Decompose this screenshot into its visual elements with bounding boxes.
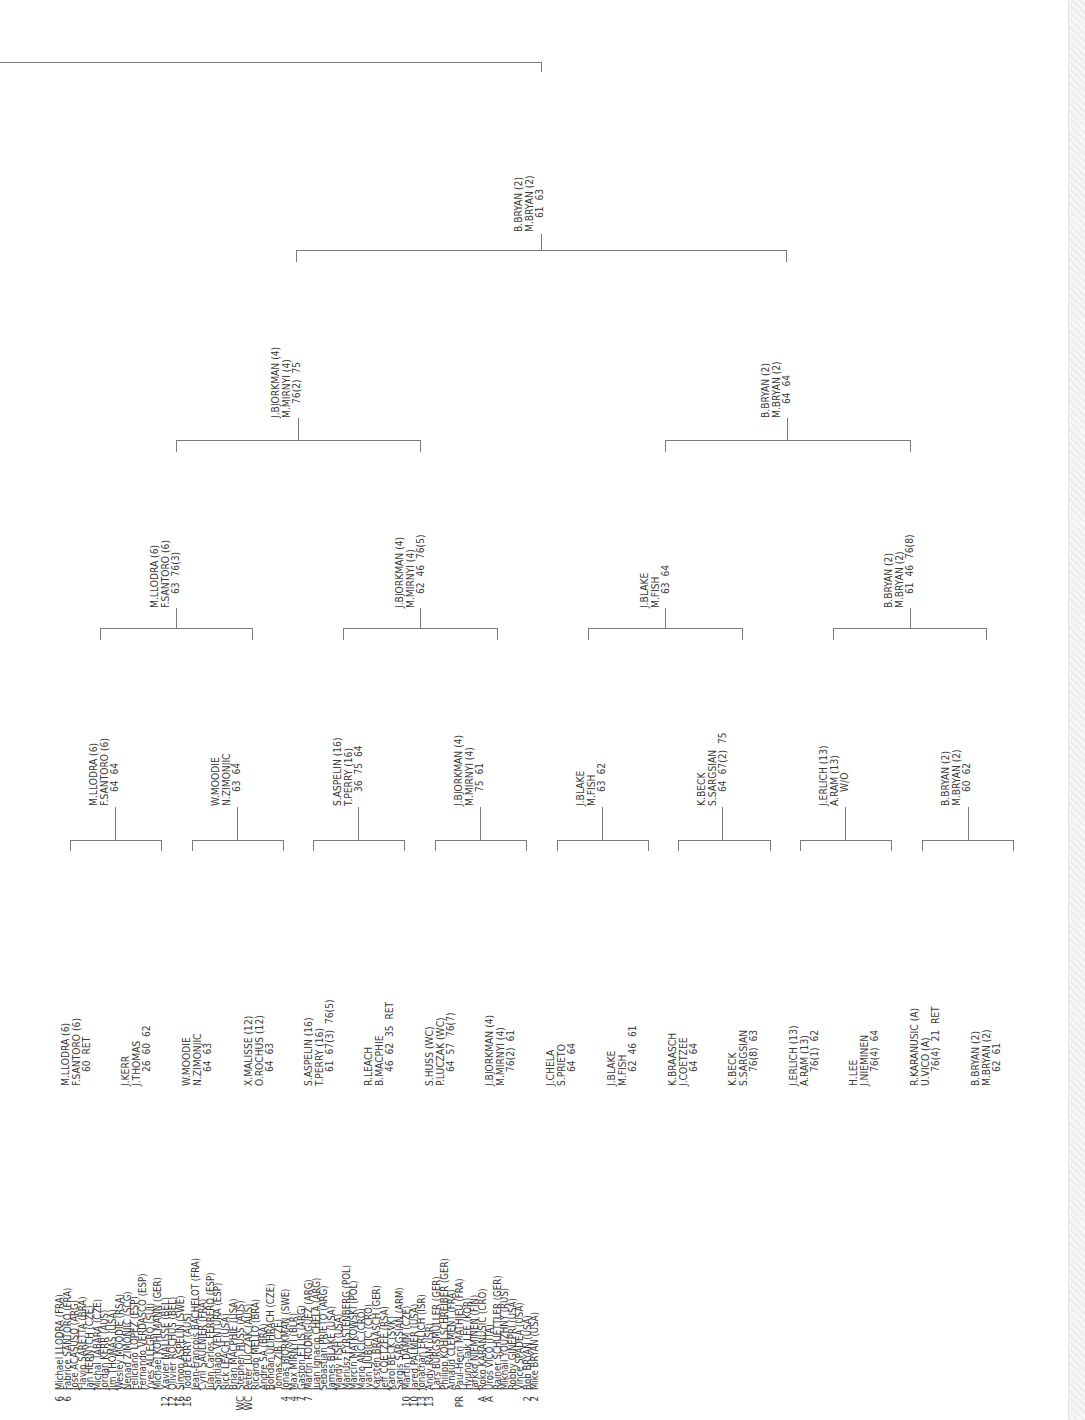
- match-score: 64 64: [782, 361, 793, 418]
- team-player: R.KARANUSIC (A): [910, 1006, 921, 1086]
- player-seed: 4: [282, 1390, 290, 1416]
- team-player: J.ERLICH (13): [819, 745, 830, 806]
- r1-match-result: B.BRYAN (2)M.BRYAN (2)62 61: [971, 1029, 1003, 1086]
- sf-match-result: J.BJORKMAN (4)M.MIRNYI (4)76(2) 75: [271, 347, 303, 418]
- player-seed: 7: [305, 1390, 313, 1416]
- team-player: J.BJORKMAN (4): [271, 347, 282, 418]
- player-seed: [214, 1390, 222, 1416]
- player-seed: [358, 1390, 366, 1416]
- match-score: 62 46 61: [628, 1025, 639, 1086]
- team-player: M.LLODRA (6): [61, 1018, 72, 1086]
- match-score: 63 64: [661, 565, 672, 608]
- match-score: 62 61: [992, 1029, 1003, 1086]
- match-score: 64 63: [265, 1015, 276, 1086]
- match-score: 64 67(2) 75: [718, 732, 729, 806]
- r1-match-result: X.MALISSE (12)O.ROCHUS (12)64 63: [244, 1015, 276, 1086]
- player-seed: A: [479, 1390, 487, 1416]
- r2-match-result: J.BLAKEM.FISH63 62: [576, 763, 608, 806]
- player-seed: [494, 1390, 502, 1416]
- player-seed: [86, 1390, 94, 1416]
- player-seed: [441, 1390, 449, 1416]
- team-player: K.BECK: [697, 732, 708, 806]
- r1-match-result: J.BLAKEM.FISH62 46 61: [607, 1025, 639, 1086]
- player-seed: WC: [245, 1390, 253, 1416]
- team-player: B.BRYAN (2): [884, 534, 895, 608]
- player-seed: [124, 1390, 132, 1416]
- r1-match-result: J.CHELAS.PRIETO64 64: [546, 1043, 578, 1086]
- match-score: 76(8) 63: [749, 1030, 760, 1086]
- r2-match-result: J.BJORKMAN (4)M.MIRNYI (4)75 61: [454, 735, 486, 806]
- player-seed: [147, 1390, 155, 1416]
- r1-match-result: S.ASPELIN (16)T.PERRY (16)61 67(3) 76(5): [304, 999, 336, 1086]
- player-seed: 6: [56, 1390, 64, 1416]
- team-player: J.ERLICH (13): [789, 1025, 800, 1086]
- player-seed: [381, 1390, 389, 1416]
- player-seed: 4: [290, 1390, 298, 1416]
- player-seed: [464, 1390, 472, 1416]
- team-player: J.BJORKMAN (4): [485, 1015, 496, 1086]
- match-score: 76(4) 21 RET: [931, 1006, 942, 1086]
- player-seed: PR: [456, 1390, 464, 1416]
- player-seed: 2: [524, 1390, 532, 1416]
- player-seed: 6: [64, 1390, 72, 1416]
- team-player: J.CHELA: [546, 1043, 557, 1086]
- team-player: J.BLAKE: [640, 565, 651, 608]
- match-score: 75 61: [475, 735, 486, 806]
- team-player: J.BJORKMAN (4): [395, 534, 406, 608]
- team-player: S.HUSS (WC): [425, 1012, 436, 1086]
- match-score: 26 60 62: [142, 1025, 153, 1086]
- match-score: 63 62: [597, 763, 608, 806]
- player-seed: 7: [298, 1390, 306, 1416]
- r1-match-result: J.ERLICH (13)A.RAM (13)76(1) 62: [789, 1025, 821, 1086]
- player-seed: [192, 1390, 200, 1416]
- qf-match-result: J.BLAKEM.FISH63 64: [640, 565, 672, 608]
- player-seed: [516, 1390, 524, 1416]
- team-player: J.BLAKE: [576, 763, 587, 806]
- r1-match-result: K.BRAASCHJ.COETZEE64 64: [668, 1033, 700, 1086]
- player-seed: 2: [531, 1390, 539, 1416]
- match-score: 64 64: [689, 1033, 700, 1086]
- r1-match-result: M.LLODRA (6)F.SANTORO (6)60 RET: [61, 1018, 93, 1086]
- team-player: B.BRYAN (2): [761, 361, 772, 418]
- player-seed: [343, 1390, 351, 1416]
- team-player: J.KERR: [121, 1025, 132, 1086]
- team-player: M.LLODRA (6): [150, 540, 161, 608]
- r1-match-result: S.HUSS (WC)P.LUCZAK (WC)64 57 76(7): [425, 1012, 457, 1086]
- player-seed: [267, 1390, 275, 1416]
- player-seed: [501, 1390, 509, 1416]
- match-score: 61 63: [535, 175, 546, 232]
- match-score: 36 75 64: [354, 737, 365, 806]
- player-seed: [101, 1390, 109, 1416]
- player-seed: 16: [184, 1390, 192, 1416]
- player-seed: [71, 1390, 79, 1416]
- match-score: 60 62: [962, 749, 973, 806]
- team-player: S.ASPELIN (16): [333, 737, 344, 806]
- player-seed: [207, 1390, 215, 1416]
- match-score: 76(1) 62: [810, 1025, 821, 1086]
- player-seed: 13: [426, 1390, 434, 1416]
- match-score: 76(2) 75: [292, 347, 303, 418]
- match-score: 64 64: [110, 738, 121, 806]
- r2-match-result: W.MOODIEN.ZIMONJIC63 64: [211, 753, 243, 806]
- player-seed: [199, 1390, 207, 1416]
- player-seed: A: [486, 1390, 494, 1416]
- team-player: R.LEACH: [364, 1002, 375, 1086]
- match-score: W/O: [840, 745, 851, 806]
- match-score: 64 57 76(7): [446, 1012, 457, 1086]
- team-player: B.BRYAN (2): [941, 749, 952, 806]
- r1-match-result: J.KERRJ.THOMAS26 60 62: [121, 1025, 153, 1086]
- match-score: 63 76(3): [171, 540, 182, 608]
- player-seed: [79, 1390, 87, 1416]
- team-player: K.BRAASCH: [668, 1033, 679, 1086]
- player-row: 2 Mike BRYAN (USA): [531, 1116, 539, 1416]
- match-score: 64 63: [203, 1033, 214, 1086]
- player-seed: [252, 1390, 260, 1416]
- qf-match-result: M.LLODRA (6)F.SANTORO (6)63 76(3): [150, 540, 182, 608]
- team-player: W.MOODIE: [182, 1033, 193, 1086]
- player-seed: [320, 1390, 328, 1416]
- final-match-result: B.BRYAN (2)M.BRYAN (2)61 63: [514, 175, 546, 232]
- r2-match-result: K.BECKS.SARGSIAN64 67(2) 75: [697, 732, 729, 806]
- match-score: 76(4) 64: [870, 1030, 881, 1086]
- team-player: B.BRYAN (2): [971, 1029, 982, 1086]
- team-player: K.BECK: [728, 1030, 739, 1086]
